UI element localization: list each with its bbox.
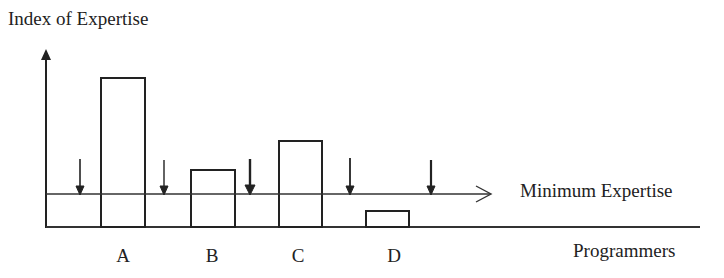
minimum-expertise-label: Minimum Expertise: [520, 180, 673, 202]
category-label-d: D: [372, 245, 416, 267]
bar-d: [366, 211, 409, 227]
category-label-a: A: [101, 245, 145, 267]
category-label-c: C: [276, 245, 320, 267]
bar-b: [191, 170, 235, 227]
y-axis-arrow-icon: [41, 49, 51, 60]
x-axis-label: Programmers: [573, 240, 675, 262]
expertise-diagram: [0, 0, 724, 278]
down-arrow-icons: [76, 158, 435, 195]
bar-c: [279, 141, 322, 227]
category-label-b: B: [190, 245, 234, 267]
bar-a: [101, 78, 145, 227]
